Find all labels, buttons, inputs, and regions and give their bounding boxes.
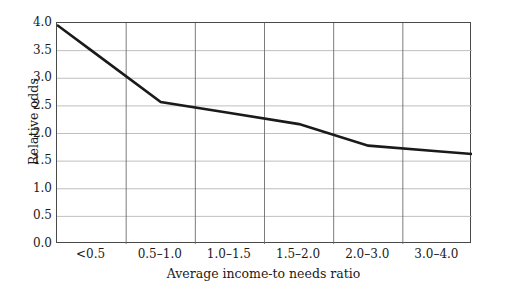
y-tick-label: 0.5 [22, 209, 52, 221]
y-tick-label: 2.0 [22, 127, 52, 139]
x-axis-title: Average income-to needs ratio [56, 266, 471, 281]
x-tick-label: 1.0–1.5 [207, 247, 251, 261]
y-axis-tick-labels: 0.00.51.01.52.02.53.03.54.0 [22, 0, 52, 291]
y-tick-label: 2.5 [22, 99, 52, 111]
x-axis-tick-labels: <0.50.5–1.01.0–1.51.5–2.02.0–3.03.0–4.0 [56, 247, 471, 265]
y-tick-label: 1.5 [22, 154, 52, 166]
y-tick-label: 3.5 [22, 44, 52, 56]
x-tick-label: 0.5–1.0 [138, 247, 182, 261]
x-tick-label: 3.0–4.0 [414, 247, 458, 261]
y-tick-label: 4.0 [22, 16, 52, 28]
y-tick-label: 3.0 [22, 71, 52, 83]
x-tick-label: 2.0–3.0 [345, 247, 389, 261]
x-tick-label: <0.5 [76, 247, 105, 261]
chart-canvas [57, 23, 472, 244]
chart-figure: Relative odds 0.00.51.01.52.02.53.03.54.… [0, 0, 511, 291]
y-tick-label: 0.0 [22, 237, 52, 249]
plot-area [56, 22, 471, 243]
x-tick-label: 1.5–2.0 [276, 247, 320, 261]
y-tick-label: 1.0 [22, 182, 52, 194]
